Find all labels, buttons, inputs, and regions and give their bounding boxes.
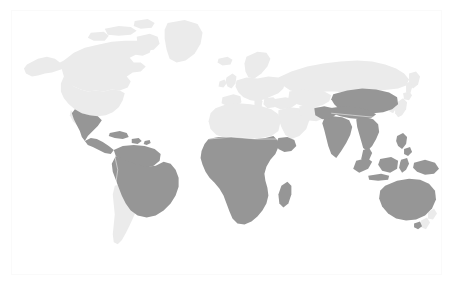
world-map-figure [0,0,453,285]
map-frame [11,10,442,275]
world-map-svg [12,11,441,274]
